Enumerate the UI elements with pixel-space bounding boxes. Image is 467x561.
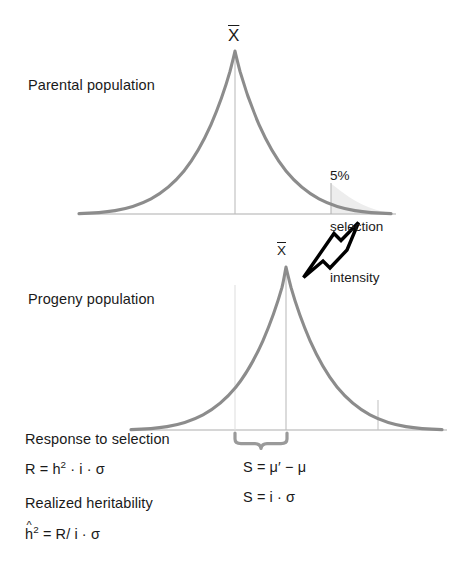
label-progeny-population: Progeny population xyxy=(28,291,155,308)
heritability-hat-accent: ^ xyxy=(27,519,32,532)
selection-note-line-3: intensity xyxy=(330,269,383,286)
response-lhs: R xyxy=(25,461,36,477)
selection-note-line-2: selection xyxy=(330,218,383,235)
response-eq: = xyxy=(36,461,53,477)
label-response-to-selection-heading: Response to selection xyxy=(25,431,170,448)
parental-mean-symbol: X xyxy=(228,26,239,45)
response-rhs: · i · σ xyxy=(66,461,105,477)
heritability-rhs: = R/ i · σ xyxy=(39,526,100,542)
label-parental-population: Parental population xyxy=(28,77,155,94)
formula-realized-heritability: ^h2 = R/ i · σ xyxy=(25,526,100,543)
response-h: h xyxy=(52,461,60,477)
formula-selection-differential: S = μ′ − μ xyxy=(243,459,306,476)
figure-canvas: Parental population Progeny population 5… xyxy=(0,0,467,561)
label-progeny-mean: X xyxy=(277,243,286,259)
formula-selection-differential-intensity: S = i · σ xyxy=(243,489,295,506)
label-realized-heritability-heading: Realized heritability xyxy=(25,495,153,512)
label-parental-mean: X xyxy=(228,26,239,46)
progeny-distribution-group xyxy=(130,267,447,430)
selection-note-line-1: 5% xyxy=(330,167,383,184)
formula-response-to-selection: R = h2 · i · σ xyxy=(25,461,105,478)
selection-differential-brace xyxy=(235,433,287,449)
label-selection-intensity-note: 5% selection intensity xyxy=(330,133,383,320)
progeny-mean-symbol: X xyxy=(277,243,286,258)
